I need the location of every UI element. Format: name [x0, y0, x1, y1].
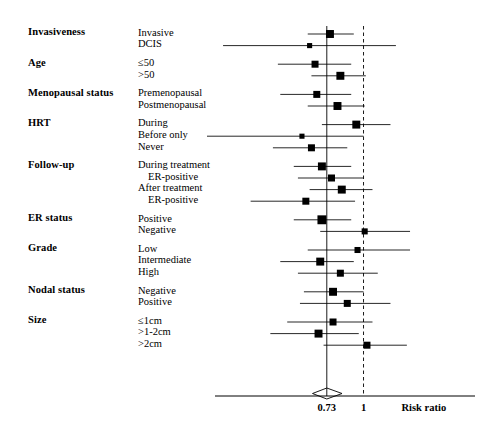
forest-row — [280, 258, 353, 266]
forest-row — [298, 270, 378, 277]
forest-row — [308, 247, 410, 253]
level-label-dcis: DCIS — [138, 38, 162, 49]
level-label-negative: Negative — [138, 224, 176, 235]
point-estimate-box — [363, 342, 370, 349]
forest-row — [251, 198, 355, 205]
point-estimate-box — [313, 91, 320, 98]
x-tick-label-073: 0.73 — [318, 402, 336, 413]
forest-row — [223, 43, 396, 48]
point-estimate-box — [352, 121, 360, 129]
group-label-er-status: ER status — [28, 212, 72, 223]
point-estimate-box — [337, 270, 344, 277]
forest-row — [294, 215, 351, 224]
point-estimate-box — [308, 144, 315, 151]
point-estimate-box — [302, 198, 309, 205]
level-label-postmenopausal: Postmenopausal — [138, 99, 206, 110]
forest-row — [324, 342, 407, 349]
forest-row — [298, 175, 364, 182]
forest-row — [280, 91, 351, 98]
point-estimate-box — [344, 300, 351, 307]
level-label--2cm: >2cm — [138, 338, 162, 349]
forest-row — [294, 162, 351, 170]
point-estimate-box — [336, 72, 344, 80]
forest-row — [310, 186, 373, 194]
point-estimate-box — [317, 215, 326, 224]
level-label-positive: Positive — [138, 213, 172, 224]
forest-row — [322, 121, 391, 129]
point-estimate-box — [362, 228, 368, 234]
point-estimate-box — [338, 186, 346, 194]
level-label--50: >50 — [138, 69, 154, 80]
level-label-after-treatment: After treatment — [138, 182, 202, 193]
forest-row — [311, 72, 365, 80]
point-estimate-box — [330, 319, 337, 326]
forest-row — [273, 144, 347, 151]
point-estimate-box — [355, 247, 361, 253]
forest-row — [278, 61, 351, 68]
level-label-before-only: Before only — [138, 129, 188, 140]
point-estimate-box — [312, 61, 319, 68]
point-estimate-box — [318, 162, 326, 170]
level-label-low: Low — [138, 243, 157, 254]
point-estimate-box — [316, 258, 324, 266]
group-label-follow-up: Follow-up — [28, 159, 74, 170]
group-label-hrt: HRT — [28, 117, 51, 128]
group-label-nodal-status: Nodal status — [28, 284, 85, 295]
point-estimate-box — [326, 30, 334, 38]
forest-row — [270, 330, 358, 338]
forest-row — [308, 102, 365, 110]
level-label-er-positive: ER-positive — [148, 194, 198, 205]
point-estimate-box — [328, 175, 335, 182]
forest-row — [304, 288, 364, 296]
forest-row — [207, 134, 364, 139]
point-estimate-box — [334, 102, 342, 110]
level-label-intermediate: Intermediate — [138, 254, 191, 265]
x-axis-title: Risk ratio — [402, 402, 447, 413]
level-label-positive: Positive — [138, 296, 172, 307]
level-label--1cm: ≤1cm — [138, 315, 162, 326]
forest-row — [320, 228, 410, 234]
point-estimate-box — [299, 134, 304, 139]
pooled-estimate-diamond — [313, 388, 342, 399]
point-estimate-box — [315, 330, 323, 338]
forest-row — [287, 319, 372, 326]
group-label-menopausal-status: Menopausal status — [28, 87, 113, 98]
group-label-invasiveness: Invasiveness — [28, 26, 85, 37]
forest-row — [308, 30, 354, 38]
group-label-age: Age — [28, 57, 46, 68]
forest-plot-canvas — [0, 0, 495, 428]
level-label-high: High — [138, 266, 159, 277]
level-label-invasive: Invasive — [138, 27, 174, 38]
group-label-size: Size — [28, 314, 46, 325]
level-label-negative: Negative — [138, 285, 176, 296]
point-estimate-box — [329, 288, 337, 296]
level-label-during: During — [138, 117, 168, 128]
point-estimate-box — [307, 43, 312, 48]
forest-row — [300, 300, 391, 307]
level-label--1-2cm: >1-2cm — [138, 326, 171, 337]
level-label-er-positive: ER-positive — [148, 171, 198, 182]
level-label-never: Never — [138, 141, 164, 152]
level-label-premenopausal: Premenopausal — [138, 87, 202, 98]
level-label--50: ≤50 — [138, 57, 154, 68]
x-tick-label-1: 1 — [361, 402, 366, 413]
level-label-during-treatment: During treatment — [138, 159, 210, 170]
group-label-grade: Grade — [28, 242, 57, 253]
